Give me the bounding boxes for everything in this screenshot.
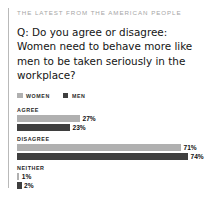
bar-value-label: 23% [73, 124, 86, 131]
bar-men [17, 182, 22, 189]
legend-label-women: WOMEN [26, 93, 50, 99]
legend-label-men: MEN [72, 93, 86, 99]
bar-row: 23% [17, 124, 213, 131]
bar-row: 71% [17, 144, 213, 151]
bar-group-label: AGREE [17, 107, 213, 113]
bar-value-label: 2% [24, 182, 34, 189]
poll-chart-card: THE LATEST FROM THE AMERICAN PEOPLE Q: D… [0, 0, 213, 204]
bar-group-disagree: DISAGREE 71% 74% [17, 136, 213, 160]
bar-value-label: 1% [22, 173, 32, 180]
bar-row: 74% [17, 153, 213, 160]
legend-item-men: MEN [63, 93, 86, 99]
legend-swatch-women [17, 93, 23, 99]
bar-group-label: NEITHER [17, 165, 213, 171]
kicker-label: THE LATEST FROM THE AMERICAN PEOPLE [17, 9, 213, 16]
bar-group-label: DISAGREE [17, 136, 213, 142]
bar-group-agree: AGREE 27% 23% [17, 107, 213, 131]
poll-question: Q: Do you agree or disagree: Women need … [17, 25, 207, 83]
bar-women [17, 144, 181, 151]
bar-value-label: 71% [184, 144, 197, 151]
chart-legend: WOMEN MEN [17, 93, 213, 99]
card-content: THE LATEST FROM THE AMERICAN PEOPLE Q: D… [17, 0, 213, 194]
legend-swatch-men [63, 93, 69, 99]
legend-item-women: WOMEN [17, 93, 50, 99]
bar-men [17, 124, 70, 131]
bar-group-neither: NEITHER 1% 2% [17, 165, 213, 189]
left-vertical-rule [8, 8, 9, 188]
bar-value-label: 74% [191, 153, 204, 160]
bar-row: 1% [17, 173, 213, 180]
bar-women [17, 115, 80, 122]
bar-row: 2% [17, 182, 213, 189]
bar-row: 27% [17, 115, 213, 122]
bar-women [17, 173, 19, 180]
bar-value-label: 27% [83, 115, 96, 122]
chart-groups: AGREE 27% 23% DISAGREE 71% 74% [17, 107, 213, 189]
bar-men [17, 153, 188, 160]
